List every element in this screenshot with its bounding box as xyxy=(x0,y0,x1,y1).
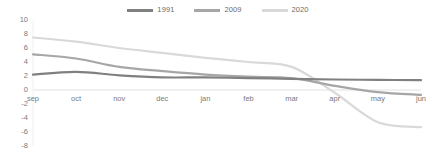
legend-swatch-1991 xyxy=(127,9,153,12)
legend-label-2020: 2020 xyxy=(292,6,309,14)
legend-label-1991: 1991 xyxy=(157,6,174,14)
y-axis-tick-label: -8 xyxy=(21,142,28,150)
legend-item-2009[interactable]: 2009 xyxy=(194,6,241,14)
x-axis-tick-label: may xyxy=(371,95,385,103)
line-chart: 1991 2009 2020 1086420-2-4-6-8 sepoctnov… xyxy=(0,0,436,151)
y-axis-tick-label: -6 xyxy=(21,128,28,136)
legend-swatch-2020 xyxy=(262,9,288,12)
legend-item-1991[interactable]: 1991 xyxy=(127,6,174,14)
x-axis-tick-label: jan xyxy=(200,95,210,103)
x-axis-tick-label: jun xyxy=(416,95,426,103)
x-axis-tick-label: nov xyxy=(113,95,125,103)
x-axis-tick-label: feb xyxy=(243,95,253,103)
x-axis-tick-label: apr xyxy=(329,95,340,103)
x-axis-tick-label: dec xyxy=(156,95,168,103)
y-axis-tick-label: 8 xyxy=(24,30,28,38)
legend-label-2009: 2009 xyxy=(224,6,241,14)
y-axis-tick-label: 10 xyxy=(20,16,28,24)
x-axis-tick-label: mar xyxy=(285,95,298,103)
y-axis-tick-label: 0 xyxy=(24,86,28,94)
y-axis-tick-label: 2 xyxy=(24,72,28,80)
x-axis-tick-label: sep xyxy=(27,95,39,103)
y-axis: 1086420-2-4-6-8 xyxy=(0,20,33,146)
y-axis-tick-label: -4 xyxy=(21,114,28,122)
y-axis-tick-label: 4 xyxy=(24,58,28,66)
chart-legend: 1991 2009 2020 xyxy=(0,2,436,18)
legend-item-2020[interactable]: 2020 xyxy=(262,6,309,14)
x-axis-tick-label: oct xyxy=(71,95,81,103)
y-axis-tick-label: 6 xyxy=(24,44,28,52)
legend-swatch-2009 xyxy=(194,9,220,12)
x-axis: sepoctnovdecjanfebmaraprmayjun xyxy=(33,20,421,146)
